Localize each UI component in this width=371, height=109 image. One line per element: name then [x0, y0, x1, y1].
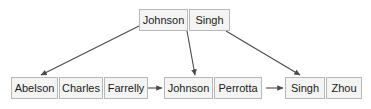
arrow-root-to-chain-2	[187, 31, 195, 75]
diagram-canvas: Johnson Singh Abelson Charles Farrelly J…	[0, 0, 371, 109]
table-cell[interactable]: Singh	[285, 77, 325, 99]
table-cell[interactable]: Perrotta	[214, 77, 262, 99]
table-cell[interactable]: Zhou	[326, 77, 362, 99]
table-cell[interactable]: Johnson	[139, 9, 188, 31]
table-cell[interactable]: Abelson	[11, 77, 58, 99]
table-cell[interactable]: Johnson	[164, 77, 213, 99]
table-cell[interactable]: Charles	[59, 77, 103, 99]
table-cell[interactable]: Farrelly	[104, 77, 148, 99]
chain-node-2: Johnson Perrotta	[164, 77, 262, 99]
arrow-root-to-chain-3	[226, 31, 300, 75]
chain-node-1: Abelson Charles Farrelly	[11, 77, 148, 99]
root-bucket-node: Johnson Singh	[139, 9, 230, 31]
arrow-root-to-chain-1	[41, 25, 141, 75]
table-cell[interactable]: Singh	[189, 9, 230, 31]
chain-node-3: Singh Zhou	[285, 77, 362, 99]
